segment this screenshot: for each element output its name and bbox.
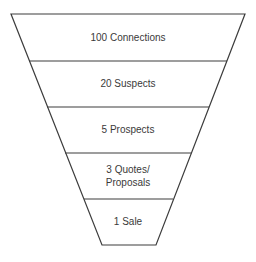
stage-label-quotes-proposals: 3 Quotes/ Proposals [0, 163, 256, 189]
stage-label-prospects: 5 Prospects [0, 123, 256, 136]
stage-label-connections: 100 Connections [0, 31, 256, 44]
stage-label-sale: 1 Sale [0, 215, 256, 228]
stage-label-suspects: 20 Suspects [0, 77, 256, 90]
